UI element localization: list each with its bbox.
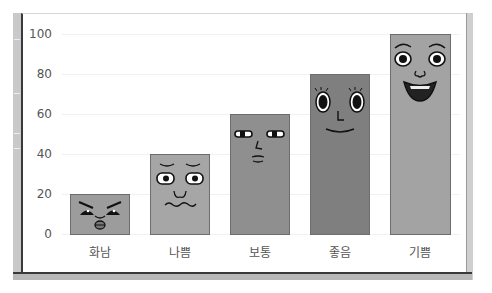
bar-angry (70, 194, 130, 235)
y-tick-60: 60 (12, 107, 52, 121)
smiling-face-icon (311, 75, 369, 234)
laughing-face-icon (391, 35, 450, 234)
angry-face-icon (71, 195, 129, 234)
y-tick-0: 0 (12, 227, 52, 241)
x-label-happy: 기쁨 (380, 243, 460, 260)
y-tick-100: 100 (12, 27, 52, 41)
bar-normal (230, 114, 290, 235)
bar-good (310, 74, 370, 235)
neutral-face-icon (231, 115, 289, 234)
y-tick-20: 20 (12, 187, 52, 201)
right-window-edge (466, 13, 473, 280)
x-label-bad: 나쁨 (140, 243, 220, 260)
bar-happy (390, 34, 451, 235)
y-tick-80: 80 (12, 67, 52, 81)
y-tick-40: 40 (12, 147, 52, 161)
x-label-good: 좋음 (300, 243, 380, 260)
worried-face-icon (151, 155, 209, 234)
bottom-window-edge (13, 272, 472, 280)
x-label-angry: 화남 (60, 243, 140, 260)
x-label-normal: 보통 (220, 243, 300, 260)
bar-bad (150, 154, 210, 235)
